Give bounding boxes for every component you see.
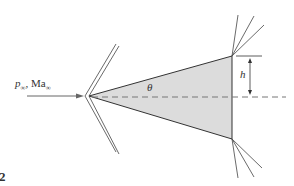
freestream-label: p∞, Ma∞ bbox=[15, 77, 51, 92]
expansion-fan-top bbox=[232, 15, 264, 56]
wedge-flow-diagram bbox=[0, 0, 294, 186]
height-label: h bbox=[240, 68, 246, 80]
arrow-up-icon bbox=[248, 58, 252, 63]
wedge-body bbox=[89, 56, 232, 139]
mach-subscript: ∞ bbox=[46, 84, 51, 92]
mach-symbol: Ma bbox=[31, 77, 46, 89]
arrow-head-icon bbox=[76, 94, 84, 99]
arrow-down-icon bbox=[248, 90, 252, 95]
figure-number-fragment: 2 bbox=[0, 169, 6, 185]
expansion-fan-bottom bbox=[232, 139, 262, 178]
freestream-arrow bbox=[27, 94, 84, 99]
angle-label: θ bbox=[147, 81, 152, 93]
